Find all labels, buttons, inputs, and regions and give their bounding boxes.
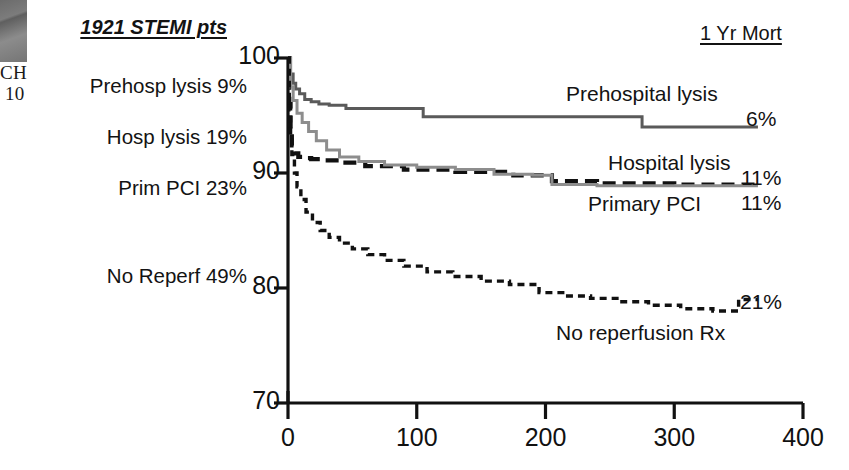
x-tick-label: 200: [501, 423, 591, 452]
y-tick-label: 70: [196, 386, 280, 415]
survival-chart: 7080901000100200300400 Prehospital lysis…: [0, 0, 849, 470]
mortality-value-prehospital-lysis: 6%: [746, 107, 776, 131]
series-label-no-reperfusion-rx: No reperfusion Rx: [556, 321, 725, 345]
series-label-primary-pci: Primary PCI: [588, 192, 701, 216]
x-tick-label: 100: [372, 423, 462, 452]
y-tick-label: 100: [196, 41, 280, 70]
slide-root: CH 10 1921 STEMI pts Prehosp lysis 9% Ho…: [0, 0, 849, 470]
y-tick-label: 90: [196, 156, 280, 185]
mortality-value-hospital-lysis: 11%: [741, 166, 781, 190]
series-label-prehospital-lysis: Prehospital lysis: [566, 82, 718, 106]
mortality-value-primary-pci: 11%: [741, 191, 781, 215]
x-tick-label: 400: [758, 423, 848, 452]
chart-canvas: [0, 0, 849, 470]
series-label-hospital-lysis: Hospital lysis: [608, 151, 731, 175]
x-tick-label: 300: [629, 423, 719, 452]
x-tick-label: 0: [243, 423, 333, 452]
y-tick-label: 80: [196, 271, 280, 300]
mortality-value-no-reperfusion-rx: 21%: [740, 290, 782, 314]
